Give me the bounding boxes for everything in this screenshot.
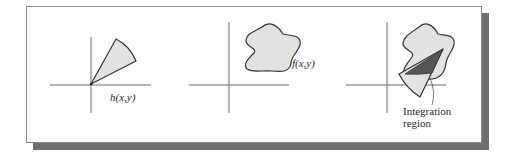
leader-line: [430, 78, 434, 105]
convolution-diagram: h(x,y) f(x,y) Integration region: [0, 0, 511, 163]
panel-function: f(x,y): [189, 22, 315, 113]
kernel-label: h(x,y): [110, 91, 136, 104]
integration-label-line1: Integration: [403, 105, 452, 117]
panel-integration: Integration region: [346, 22, 454, 129]
function-label: f(x,y): [292, 57, 315, 70]
panel-kernel: h(x,y): [50, 37, 151, 113]
origin-dot: [90, 83, 93, 86]
integration-label-line2: region: [403, 117, 432, 129]
kernel-wedge: [91, 39, 136, 84]
